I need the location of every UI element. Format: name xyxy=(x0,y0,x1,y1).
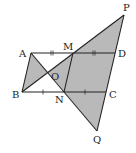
label-p: P xyxy=(123,2,130,13)
geometry-diagram: A M D B N C O P Q xyxy=(0,0,136,153)
label-b: B xyxy=(12,89,19,100)
label-a: A xyxy=(18,48,27,59)
label-m: M xyxy=(63,41,73,52)
label-o: O xyxy=(51,71,59,82)
label-d: D xyxy=(118,48,126,59)
label-c: C xyxy=(109,89,117,100)
shaded-triangle-opq xyxy=(48,15,124,131)
label-n: N xyxy=(55,94,64,105)
label-q: Q xyxy=(93,134,101,145)
